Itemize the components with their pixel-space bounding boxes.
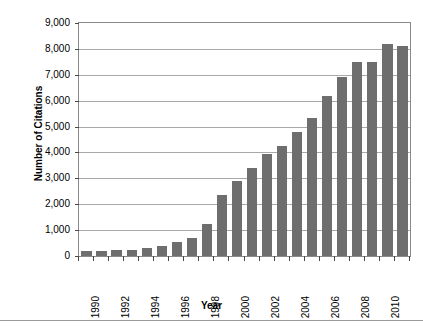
bar (367, 62, 377, 256)
bar (322, 96, 332, 257)
x-tick-mark (183, 256, 184, 261)
x-tick-mark (168, 256, 169, 261)
bar (337, 77, 347, 256)
bar (382, 44, 392, 256)
y-tick-label: 4,000 (45, 146, 70, 157)
bar (202, 224, 212, 256)
bar (217, 195, 227, 256)
bar (142, 248, 152, 256)
x-tick-mark (409, 256, 410, 261)
x-tick-mark (198, 256, 199, 261)
y-tick-label: 0 (64, 250, 70, 261)
bar (232, 181, 242, 256)
bottom-divider (0, 320, 423, 321)
bar (292, 132, 302, 256)
bar (397, 46, 407, 256)
x-tick-mark (289, 256, 290, 261)
y-tick-label: 6,000 (45, 94, 70, 105)
x-tick-mark (213, 256, 214, 261)
bar (157, 246, 167, 256)
citations-bar-chart: Number of Citations 9,0008,0007,0006,000… (0, 0, 423, 329)
bar (262, 154, 272, 256)
bar (352, 62, 362, 256)
y-tick-label: 8,000 (45, 42, 70, 53)
y-tick-label: 9,000 (45, 17, 70, 28)
x-tick-mark (123, 256, 124, 261)
x-tick-mark (274, 256, 275, 261)
bar (247, 168, 257, 256)
y-tick-label: 1,000 (45, 224, 70, 235)
x-tick-mark (108, 256, 109, 261)
y-tick-label: 5,000 (45, 120, 70, 131)
x-tick-mark (304, 256, 305, 261)
y-tick-label: 2,000 (45, 198, 70, 209)
x-tick-mark (93, 256, 94, 261)
x-tick-mark (153, 256, 154, 261)
x-tick-mark (349, 256, 350, 261)
bar (187, 238, 197, 256)
x-tick-mark (244, 256, 245, 261)
x-tick-mark (364, 256, 365, 261)
bar-series (79, 23, 410, 256)
x-tick-mark (319, 256, 320, 261)
x-axis-title: Year (0, 300, 423, 311)
x-tick-mark (394, 256, 395, 261)
plot-area (78, 22, 411, 257)
x-tick-mark (259, 256, 260, 261)
bar (172, 242, 182, 256)
x-tick-mark (78, 256, 79, 261)
y-tick-label: 3,000 (45, 172, 70, 183)
y-tick-label: 7,000 (45, 68, 70, 79)
bar (277, 146, 287, 256)
x-axis-tick-labels: 1990199219941996199820002002200420062008… (78, 262, 409, 298)
x-tick-mark (379, 256, 380, 261)
y-axis-tick-labels: 9,0008,0007,0006,0005,0004,0003,0002,000… (18, 0, 76, 329)
x-tick-mark (138, 256, 139, 261)
x-tick-mark (334, 256, 335, 261)
x-tick-mark (228, 256, 229, 261)
bar (307, 118, 317, 257)
